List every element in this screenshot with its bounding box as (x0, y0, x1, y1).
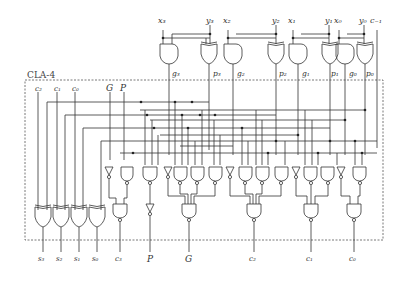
box-input-c1: c₁ (54, 85, 61, 93)
output-s1: s₁ (74, 255, 81, 263)
and-gate-g3 (160, 44, 178, 64)
cla4-circuit-diagram: CLA-4 x₃ y₃ x₂ y₂ x₁ y₁ x₀ y₀ c₋₁ g₃ p₃ … (0, 0, 408, 283)
output-s3: s₃ (38, 255, 45, 263)
label-p1: p₁ (331, 69, 339, 78)
and-gate-g2 (224, 44, 242, 64)
not-gate-2 (164, 167, 172, 175)
label-p3: p₃ (213, 69, 221, 78)
xor-gate-s3 (35, 207, 51, 227)
output-s2: s₂ (56, 255, 63, 263)
and-gate-g0 (336, 44, 354, 64)
input-y3: y₃ (205, 16, 214, 25)
nand-gate-c0 (347, 204, 361, 218)
output-c3: c₃ (115, 255, 122, 263)
input-x2: x₂ (223, 16, 231, 25)
not-gate-p (146, 204, 154, 212)
not-gate-4 (292, 167, 300, 175)
label-g3: g₃ (172, 69, 180, 78)
cla4-title: CLA-4 (27, 70, 55, 80)
xor-gate-p0 (357, 44, 373, 64)
input-y2: y₂ (271, 16, 280, 25)
nand-gate-c1 (304, 204, 318, 218)
input-y1: y₁ (324, 16, 333, 25)
xor-gate-p2 (268, 44, 284, 64)
xor-gate-s2 (53, 207, 69, 227)
output-s0: s₀ (92, 255, 99, 263)
label-g0: g₀ (349, 69, 357, 78)
not-gate-1 (105, 167, 113, 175)
label-g1: g₁ (302, 69, 310, 78)
xor-gate-s1 (71, 207, 87, 227)
input-x1: x₁ (288, 16, 296, 25)
label-p2: p₂ (279, 69, 287, 78)
output-c0: c₀ (349, 255, 356, 263)
output-P: P (146, 254, 154, 264)
input-c-minus-1: c₋₁ (370, 16, 382, 25)
not-gate-5 (337, 167, 345, 175)
output-c1: c₁ (306, 255, 313, 263)
box-input-c0: c₀ (72, 85, 79, 93)
input-x3: x₃ (158, 16, 166, 25)
box-input-c2: c₂ (35, 85, 42, 93)
nand-gate-c2 (247, 204, 261, 218)
nand-gate-G (182, 204, 196, 218)
output-G: G (185, 254, 192, 264)
box-input-G: G (106, 83, 113, 93)
output-c2: c₂ (249, 255, 256, 263)
xor-gate-s0 (89, 207, 105, 227)
input-x0: x₀ (334, 16, 343, 25)
nand-gates-layer1 (121, 167, 366, 185)
label-p0: p₀ (366, 69, 374, 78)
xor-gate-p3 (201, 44, 217, 64)
nand-gate-c3 (113, 204, 127, 218)
box-input-P: P (119, 83, 127, 93)
cla4-boundary (25, 80, 383, 240)
input-y0: y₀ (358, 16, 368, 25)
label-g2: g₂ (237, 69, 245, 78)
not-gate-3 (226, 167, 234, 175)
and-gate-g1 (289, 44, 307, 64)
